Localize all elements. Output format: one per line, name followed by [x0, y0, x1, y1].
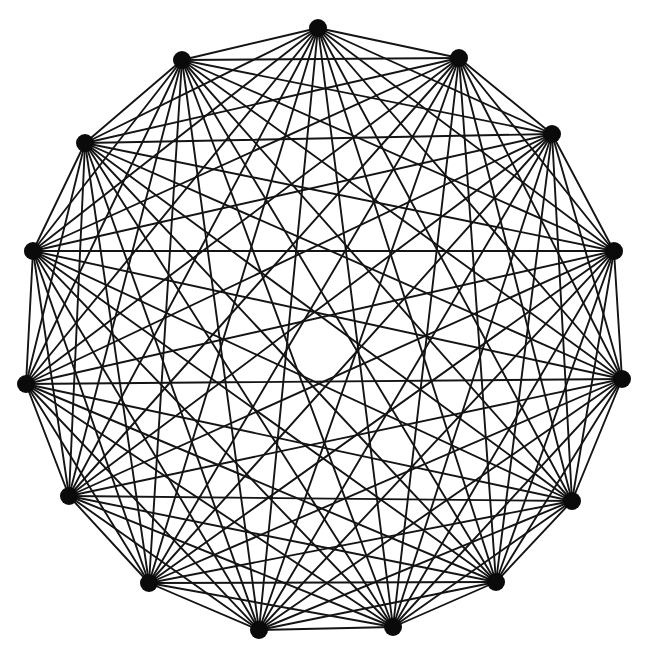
- node-3: [543, 125, 561, 143]
- node-6: [563, 492, 581, 510]
- node-13: [24, 242, 42, 260]
- node-2: [450, 49, 468, 67]
- node-15: [173, 51, 191, 69]
- node-12: [17, 375, 35, 393]
- edge-7-10: [149, 582, 496, 583]
- node-1: [309, 19, 327, 37]
- node-5: [613, 370, 631, 388]
- node-4: [605, 242, 623, 260]
- node-9: [250, 621, 268, 639]
- node-7: [487, 573, 505, 591]
- node-10: [140, 574, 158, 592]
- complete-graph-diagram: [0, 0, 649, 661]
- node-8: [384, 618, 402, 636]
- node-14: [76, 134, 94, 152]
- node-11: [60, 487, 78, 505]
